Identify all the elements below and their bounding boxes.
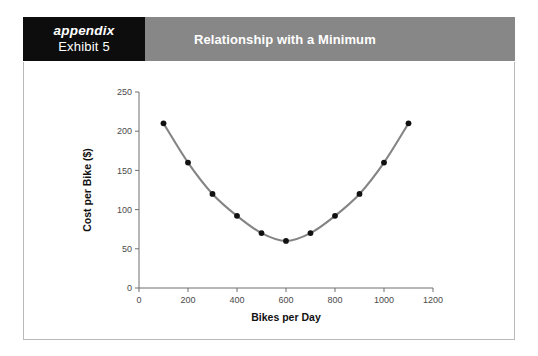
exhibit-number-label: Exhibit 5 — [58, 40, 110, 54]
data-point — [357, 191, 363, 197]
exhibit-title: Relationship with a Minimum — [194, 32, 376, 47]
data-point — [234, 213, 240, 219]
x-axis: 020040060080010001200 Bikes per Day — [136, 288, 443, 323]
x-tick-label: 200 — [180, 295, 195, 305]
data-point — [283, 238, 289, 244]
x-tick-label: 400 — [229, 295, 244, 305]
x-tick-label: 1200 — [423, 295, 443, 305]
exhibit-content-panel: 050100150200250 Cost per Bike ($) 020040… — [23, 62, 515, 340]
data-point — [259, 230, 265, 236]
exhibit-label-box: appendix Exhibit 5 — [23, 17, 145, 61]
appendix-label: appendix — [54, 24, 115, 39]
data-point — [406, 120, 412, 126]
exhibit-figure: appendix Exhibit 5 Relationship with a M… — [0, 0, 538, 356]
data-point-markers — [161, 120, 412, 243]
data-point — [185, 160, 191, 166]
chart-canvas: 050100150200250 Cost per Bike ($) 020040… — [24, 62, 516, 340]
y-tick-label: 50 — [122, 244, 132, 254]
exhibit-header: appendix Exhibit 5 Relationship with a M… — [23, 17, 515, 61]
y-axis-ticks: 050100150200250 — [117, 87, 139, 293]
y-axis: 050100150200250 Cost per Bike ($) — [81, 87, 139, 293]
data-point — [381, 160, 387, 166]
y-tick-label: 100 — [117, 205, 132, 215]
y-tick-label: 0 — [127, 283, 132, 293]
data-point — [161, 120, 167, 126]
y-axis-title: Cost per Bike ($) — [81, 148, 93, 231]
y-tick-label: 200 — [117, 126, 132, 136]
data-point — [332, 213, 338, 219]
x-tick-label: 0 — [136, 295, 141, 305]
x-tick-label: 1000 — [374, 295, 394, 305]
data-point — [308, 230, 314, 236]
y-tick-label: 250 — [117, 87, 132, 97]
x-tick-label: 600 — [278, 295, 293, 305]
exhibit-title-box: Relationship with a Minimum — [145, 17, 515, 61]
cost-curve-line — [164, 123, 409, 241]
x-axis-title: Bikes per Day — [251, 311, 321, 323]
data-point — [210, 191, 216, 197]
y-tick-label: 150 — [117, 166, 132, 176]
x-axis-ticks: 020040060080010001200 — [136, 288, 443, 305]
cost-curve-chart: 050100150200250 Cost per Bike ($) 020040… — [24, 62, 516, 340]
x-tick-label: 800 — [327, 295, 342, 305]
